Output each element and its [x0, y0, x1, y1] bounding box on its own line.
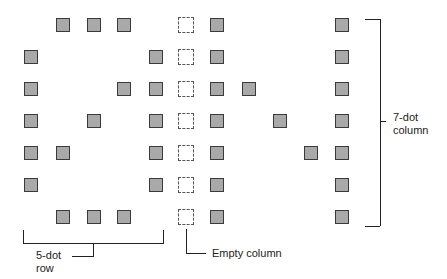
column-bracket-top	[365, 19, 380, 20]
filled-dot	[87, 114, 101, 128]
empty-dot	[178, 49, 194, 65]
filled-dot	[242, 82, 256, 96]
row-bracket-pointer-v	[93, 243, 94, 256]
filled-dot	[56, 210, 70, 224]
filled-dot	[87, 210, 101, 224]
filled-dot	[149, 178, 163, 192]
column-bracket-bottom	[365, 226, 380, 227]
filled-dot	[273, 114, 287, 128]
filled-dot	[24, 50, 38, 64]
filled-dot	[24, 114, 38, 128]
filled-dot	[87, 18, 101, 32]
empty-dot	[178, 17, 194, 33]
filled-dot	[335, 82, 349, 96]
filled-dot	[24, 178, 38, 192]
filled-dot	[117, 18, 131, 32]
empty-dot	[178, 145, 194, 161]
filled-dot	[210, 114, 224, 128]
row-bracket-pointer-h	[72, 256, 94, 257]
empty-col-pointer-v	[186, 229, 187, 253]
filled-dot	[56, 146, 70, 160]
filled-dot	[56, 18, 70, 32]
filled-dot	[210, 18, 224, 32]
empty-column-label: Empty column	[212, 247, 282, 260]
filled-dot	[335, 18, 349, 32]
row-bracket-right	[163, 230, 164, 244]
column-bracket-tick	[380, 121, 386, 122]
filled-dot	[24, 82, 38, 96]
filled-dot	[335, 146, 349, 160]
filled-dot	[24, 146, 38, 160]
empty-dot	[178, 113, 194, 129]
filled-dot	[210, 178, 224, 192]
filled-dot	[210, 50, 224, 64]
filled-dot	[335, 50, 349, 64]
filled-dot	[149, 114, 163, 128]
filled-dot	[210, 210, 224, 224]
filled-dot	[335, 210, 349, 224]
column-label: 7-dot column	[393, 111, 428, 137]
empty-dot	[178, 81, 194, 97]
filled-dot	[149, 146, 163, 160]
empty-col-pointer-h	[186, 253, 206, 254]
filled-dot	[210, 82, 224, 96]
filled-dot	[335, 178, 349, 192]
filled-dot	[304, 146, 318, 160]
empty-dot	[178, 209, 194, 225]
filled-dot	[335, 114, 349, 128]
empty-dot	[178, 177, 194, 193]
filled-dot	[117, 210, 131, 224]
row-bracket-left	[23, 230, 24, 244]
filled-dot	[149, 50, 163, 64]
filled-dot	[117, 82, 131, 96]
row-label: 5-dot row	[36, 249, 61, 275]
filled-dot	[149, 82, 163, 96]
filled-dot	[210, 146, 224, 160]
column-bracket-vertical	[380, 19, 381, 226]
